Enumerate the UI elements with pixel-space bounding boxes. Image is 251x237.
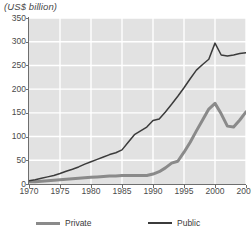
chart-unit-title: (US$ billion)	[4, 1, 57, 12]
plot-svg	[29, 18, 246, 184]
x-tick-mark	[29, 185, 30, 188]
x-tick-label: 1980	[76, 187, 106, 196]
x-tick-label: 2000	[200, 187, 230, 196]
chart-legend: Private Public	[0, 216, 251, 234]
legend-item-private: Private	[36, 219, 91, 228]
x-tick-label: 1975	[45, 187, 75, 196]
x-tick-mark	[215, 185, 216, 188]
x-tick-label: 1970	[14, 187, 44, 196]
y-tick-label: 200	[0, 85, 26, 94]
legend-item-public: Public	[148, 219, 200, 228]
y-tick-mark	[26, 113, 29, 114]
x-tick-label: 1990	[138, 187, 168, 196]
x-tick-mark	[60, 185, 61, 188]
chart-container: (US$ billion) 050100150200250300350 1970…	[0, 0, 251, 237]
x-tick-mark	[184, 185, 185, 188]
x-tick-label: 1985	[107, 187, 137, 196]
y-tick-label: 50	[0, 156, 26, 165]
x-tick-label: 1995	[169, 187, 199, 196]
series-line-private	[29, 103, 246, 181]
legend-swatch-public-icon	[148, 222, 172, 224]
legend-label-public: Public	[177, 219, 200, 228]
x-tick-mark	[246, 185, 247, 188]
y-tick-mark	[26, 42, 29, 43]
legend-swatch-private-icon	[36, 222, 60, 225]
y-tick-label: 300	[0, 37, 26, 46]
y-tick-label: 150	[0, 108, 26, 117]
y-tick-label: 350	[0, 14, 26, 23]
x-tick-mark	[153, 185, 154, 188]
y-tick-mark	[26, 18, 29, 19]
y-tick-label: 250	[0, 61, 26, 70]
x-tick-mark	[91, 185, 92, 188]
x-tick-mark	[122, 185, 123, 188]
y-tick-mark	[26, 137, 29, 138]
plot-area	[29, 18, 246, 184]
y-tick-mark	[26, 89, 29, 90]
y-tick-mark	[26, 65, 29, 66]
gridlines	[29, 18, 246, 184]
y-tick-mark	[26, 160, 29, 161]
legend-label-private: Private	[65, 219, 91, 228]
x-tick-label: 2005	[231, 187, 251, 196]
y-tick-label: 100	[0, 132, 26, 141]
